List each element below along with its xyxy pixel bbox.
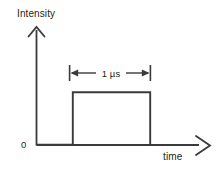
figure-root: Intensity time 0 1 µs <box>0 0 219 169</box>
dimension-label: 1 µs <box>102 68 121 79</box>
dimension-arrowhead-right-icon <box>142 69 150 76</box>
pulse-diagram-canvas: Intensity time 0 1 µs <box>0 0 219 169</box>
dimension-arrowhead-left-icon <box>70 69 78 76</box>
x-axis-title: time <box>163 151 183 162</box>
y-axis-title: Intensity <box>17 8 55 19</box>
pulse-waveform-trace <box>37 92 150 144</box>
origin-label: 0 <box>21 139 26 150</box>
